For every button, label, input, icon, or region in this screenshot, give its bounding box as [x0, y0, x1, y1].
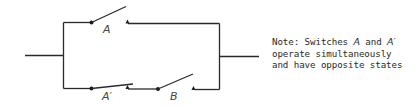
switch-b-label: B: [170, 90, 178, 103]
note-prefix: Note: Switches: [272, 36, 353, 47]
switch-b-blade: [158, 74, 193, 89]
note-line-3: and have opposite states: [272, 59, 402, 71]
note-line-2: operate simultaneously: [272, 48, 402, 60]
switch-a-label: A: [102, 23, 111, 36]
note-switch-a-prime: A′: [387, 36, 395, 47]
note-text: Note: Switches A and A′ operate simultan…: [272, 36, 402, 71]
switch-a-blade: [92, 7, 127, 23]
switch-a: A: [64, 7, 220, 37]
switch-b: B: [156, 74, 220, 103]
switch-a-prime: A′: [64, 84, 159, 103]
switch-a-prime-label: A′: [101, 90, 113, 103]
note-line-1: Note: Switches A and A′: [272, 36, 402, 48]
note-and: and: [360, 36, 387, 47]
